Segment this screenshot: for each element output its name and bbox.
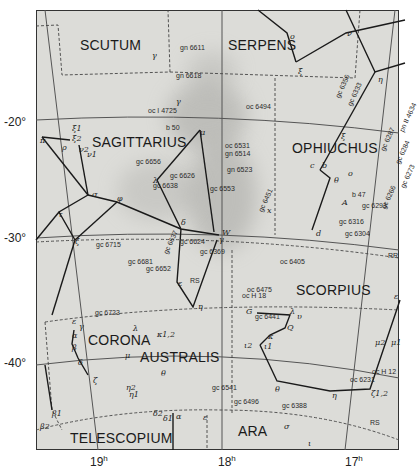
star-label: υ — [297, 313, 302, 321]
star-label: β1 — [52, 410, 62, 418]
deep-sky-object-label: gc 6715 — [96, 241, 121, 248]
deep-sky-object-label: gc 6304 — [345, 230, 370, 237]
hour-superscript: h — [103, 454, 107, 463]
star-label: θ — [161, 370, 166, 378]
star-label: π — [40, 137, 45, 145]
constellation-label: AUSTRALIS — [140, 350, 220, 364]
deep-sky-object-label: gc 6626 — [170, 172, 195, 179]
deep-sky-object-label: gc 6388 — [282, 402, 307, 409]
star-label: β2 — [40, 423, 50, 431]
constellation-label: CORONA — [88, 333, 151, 347]
constellation-label: TELESCOPIUM — [70, 431, 173, 445]
deep-sky-object-label: gc 6624 — [180, 238, 205, 245]
star-label: α — [176, 413, 181, 421]
deep-sky-object-label: RS — [190, 277, 200, 284]
star-label: G — [246, 308, 252, 316]
constellation-label: SERPENS — [228, 38, 296, 52]
star-label: τ — [58, 211, 62, 219]
star-label: φ — [117, 195, 123, 203]
star-label: ζ1,2 — [371, 390, 388, 398]
star-label: ν — [347, 30, 352, 38]
star-label: λ — [133, 325, 138, 333]
star-label: δ2 — [153, 410, 163, 418]
deep-sky-object-label: RR — [388, 252, 398, 259]
star-label: δ — [181, 219, 186, 227]
deep-sky-object-label: oc H 18 — [242, 292, 266, 299]
star-label: ι — [308, 440, 311, 448]
deep-sky-object-label: gc 6553 — [210, 185, 235, 192]
star-label: μ — [125, 352, 130, 360]
deep-sky-object-label: gn 6611 — [180, 44, 205, 51]
deep-sky-object-label: oc I 4725 — [148, 107, 177, 114]
declination-label: -40° — [4, 357, 26, 369]
constellation-label: SCUTUM — [80, 38, 141, 52]
star-label: o — [290, 33, 295, 41]
star-label: θ — [275, 386, 280, 394]
deep-sky-object-label: gn 6523 — [227, 166, 252, 173]
constellation-label: OPHIUCHUS — [292, 141, 378, 155]
star-label: b — [322, 162, 327, 170]
star-label: λ — [153, 177, 158, 185]
deep-sky-object-label: gc 6652 — [146, 265, 171, 272]
star-label: δ1 — [163, 415, 173, 423]
star-label: γ — [152, 52, 157, 60]
star-label: ξ — [298, 68, 302, 76]
star-label: γ — [219, 236, 224, 244]
right-ascension-label: 17h — [345, 455, 363, 468]
deep-sky-object-label: gc 6723 — [95, 309, 120, 316]
star-label: A — [342, 199, 348, 207]
hour-superscript: h — [358, 454, 362, 463]
star-label: μ2 — [375, 339, 385, 347]
declination-label: -20° — [4, 116, 26, 128]
deep-sky-object-label: gc 6656 — [136, 158, 161, 165]
deep-sky-object-label: oc 6531 — [225, 142, 250, 149]
right-ascension-label: 18h — [218, 455, 236, 468]
star-label: μ1 — [391, 339, 401, 347]
star-label: ε — [203, 414, 207, 422]
constellation-label: ARA — [238, 424, 267, 438]
star-label: ι1 — [264, 343, 272, 351]
constellation-label: SCORPIUS — [296, 283, 371, 297]
star-label: κ — [268, 333, 273, 341]
star-label: η — [332, 392, 337, 400]
star-label: η — [198, 303, 203, 311]
star-label: λ — [290, 308, 295, 316]
star-label: c — [310, 162, 314, 170]
deep-sky-object-label: gc 6541 — [212, 384, 237, 391]
star-label: ξ — [341, 133, 345, 141]
deep-sky-object-label: b 50 — [166, 124, 180, 131]
right-ascension-label: 19h — [90, 455, 108, 468]
star-label: ζ — [93, 377, 97, 385]
star-label: o — [348, 170, 353, 178]
deep-sky-object-label: b 47 — [352, 191, 366, 198]
declination-label: -30° — [4, 232, 26, 244]
deep-sky-object-label: oc 6405 — [280, 258, 305, 265]
star-label: θ — [334, 177, 339, 185]
constellation-label: SAGITTARIUS — [92, 135, 187, 149]
deep-sky-object-label: gc 6316 — [339, 218, 364, 225]
star-label: Q — [287, 324, 294, 332]
star-label: ε — [72, 318, 76, 326]
star-label: α — [72, 332, 77, 340]
star-label: κ1,2 — [157, 331, 175, 339]
star-label: σ — [92, 191, 97, 199]
deep-sky-object-label: oc 6231 — [350, 376, 375, 383]
deep-sky-object-label: gc 6681 — [128, 258, 153, 265]
star-label: μ — [200, 129, 205, 137]
star-label: ρ — [62, 144, 67, 152]
deep-sky-object-label: gn 6618 — [176, 72, 201, 79]
deep-sky-object-label: RS — [370, 419, 380, 426]
star-label: ι2 — [244, 342, 252, 350]
deep-sky-object-label: gc 6369 — [200, 248, 225, 255]
deep-sky-object-label: gc 6441 — [255, 313, 280, 320]
star-label: ζ — [75, 238, 79, 246]
star-label: ε — [178, 280, 182, 288]
star-label: η1 — [129, 391, 139, 399]
star-label: γ — [176, 98, 181, 106]
deep-sky-object-label: gn 6514 — [225, 150, 250, 157]
star-label: ν1 — [87, 151, 97, 159]
star-label: ξ1 — [72, 125, 82, 133]
deep-sky-object-label: oc 6494 — [246, 103, 271, 110]
star-label: δ — [78, 359, 83, 367]
